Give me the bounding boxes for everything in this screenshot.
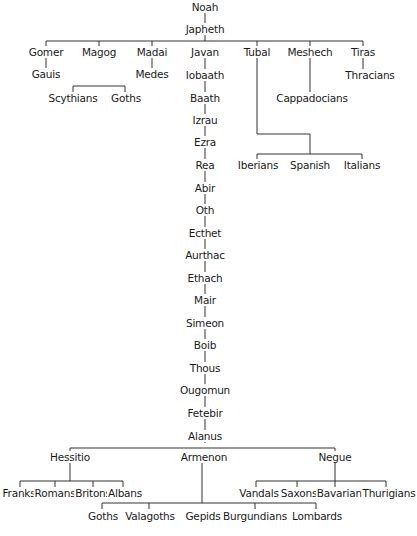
node-burgundians: Burgundians bbox=[222, 510, 288, 522]
node-cappadocians: Cappadocians bbox=[275, 92, 348, 104]
node-franks: Franks bbox=[1, 487, 36, 499]
node-abir: Abir bbox=[194, 182, 216, 194]
node-thous: Thous bbox=[189, 362, 222, 374]
node-ecthet: Ecthet bbox=[188, 227, 223, 239]
node-ougomun: Ougomun bbox=[179, 384, 231, 396]
node-izrau: Izrau bbox=[191, 114, 218, 126]
node-simeon: Simeon bbox=[185, 317, 225, 329]
node-spanish: Spanish bbox=[289, 159, 331, 171]
node-madai: Madai bbox=[136, 46, 169, 58]
node-alanus: Alanus bbox=[187, 430, 223, 442]
node-tubal: Tubal bbox=[243, 46, 272, 58]
node-gepids: Gepids bbox=[184, 510, 221, 522]
node-bavarians: Bavarians bbox=[316, 487, 368, 499]
node-goths-armenon: Goths bbox=[87, 510, 119, 522]
node-thracians: Thracians bbox=[344, 69, 395, 81]
node-lombards: Lombards bbox=[291, 510, 343, 522]
node-rea: Rea bbox=[194, 159, 215, 171]
node-gomer: Gomer bbox=[28, 46, 65, 58]
node-ezra: Ezra bbox=[193, 136, 217, 148]
node-italians: Italians bbox=[343, 159, 381, 171]
node-valagoths: Valagoths bbox=[124, 510, 176, 522]
node-scythians: Scythians bbox=[47, 92, 98, 104]
node-tiras: Tiras bbox=[350, 46, 376, 58]
node-meshech: Meshech bbox=[286, 46, 333, 58]
node-medes: Medes bbox=[134, 68, 169, 80]
node-japheth: Japheth bbox=[185, 23, 226, 35]
node-noah: Noah bbox=[191, 1, 220, 13]
node-oth: Oth bbox=[195, 204, 215, 216]
node-saxons: Saxons bbox=[280, 487, 318, 499]
node-iberians: Iberians bbox=[237, 159, 279, 171]
node-romans: Romans bbox=[34, 487, 77, 499]
node-thurigians: Thurigians bbox=[361, 487, 416, 499]
node-javan: Javan bbox=[190, 46, 220, 58]
node-vandals: Vandals bbox=[238, 487, 280, 499]
node-aurthac: Aurthac bbox=[184, 249, 226, 261]
node-negue: Negue bbox=[317, 451, 352, 463]
node-iobaath: Iobaath bbox=[185, 69, 225, 81]
node-mair: Mair bbox=[193, 294, 217, 306]
node-magog: Magog bbox=[81, 46, 117, 58]
node-boib: Boib bbox=[193, 339, 217, 351]
node-ethach: Ethach bbox=[186, 272, 223, 284]
node-goths-magog: Goths bbox=[110, 92, 142, 104]
node-baath: Baath bbox=[189, 92, 221, 104]
node-armenon: Armenon bbox=[180, 451, 228, 463]
node-hessitio: Hessitio bbox=[49, 451, 91, 463]
node-albans: Albans bbox=[107, 487, 143, 499]
node-fetebir: Fetebir bbox=[186, 407, 223, 419]
node-gauis: Gauis bbox=[31, 68, 62, 80]
